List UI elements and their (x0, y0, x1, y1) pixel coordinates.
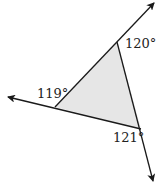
angle-label-left: 119° (37, 86, 68, 101)
triangle-exterior-angles-diagram: 120° 119° 121° (0, 0, 158, 184)
angle-label-top: 120° (125, 36, 156, 51)
angle-label-bottom-right: 121° (113, 130, 144, 145)
